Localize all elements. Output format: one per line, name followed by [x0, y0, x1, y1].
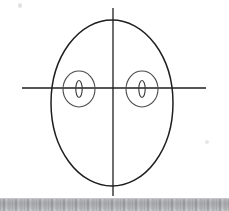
- scan-speck-top-left: [18, 3, 22, 8]
- scan-artifact-band: [0, 199, 229, 211]
- scanned-image-canvas: [0, 0, 229, 211]
- figure-background: [0, 0, 229, 211]
- scan-speck-mid-right: [205, 140, 209, 144]
- line-drawing-figure: [0, 0, 229, 211]
